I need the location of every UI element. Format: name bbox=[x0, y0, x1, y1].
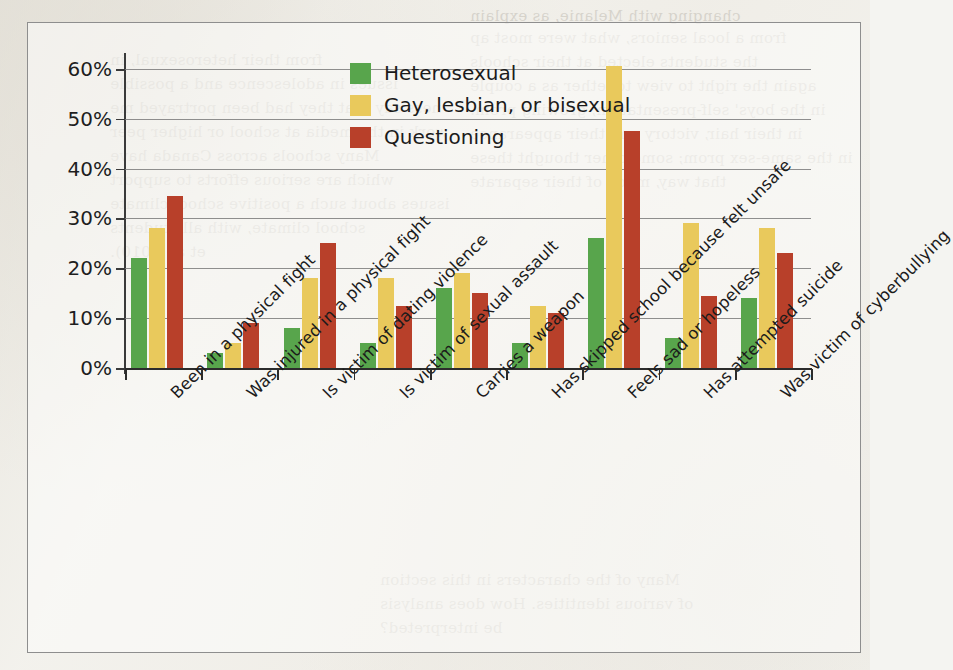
bar-2-0 bbox=[167, 196, 183, 368]
y-axis-labels: 0%10%20%30%40%50%60% bbox=[28, 23, 112, 654]
y-axis-tick-label: 50% bbox=[28, 107, 112, 131]
legend-swatch-questioning bbox=[350, 127, 371, 148]
gridline bbox=[125, 169, 811, 170]
y-axis-tick bbox=[116, 268, 125, 270]
bar-1-0 bbox=[149, 228, 165, 368]
y-axis-tick-label: 0% bbox=[28, 356, 112, 380]
y-axis-tick-label: 30% bbox=[28, 206, 112, 230]
y-axis-tick bbox=[116, 318, 125, 320]
legend-label-heterosexual: Heterosexual bbox=[384, 61, 516, 85]
x-axis-tick bbox=[811, 369, 813, 380]
legend-item: Gay, lesbian, or bisexual bbox=[350, 89, 680, 121]
plot-wrapper: 0%10%20%30%40%50%60% Heterosexual Gay, l… bbox=[28, 23, 862, 654]
x-axis-tick bbox=[430, 369, 432, 380]
bar-0-0 bbox=[131, 258, 147, 368]
chart-figure: 0%10%20%30%40%50%60% Heterosexual Gay, l… bbox=[27, 22, 861, 653]
legend-item: Questioning bbox=[350, 121, 680, 153]
legend-swatch-gay-lesbian-bisexual bbox=[350, 95, 371, 116]
y-axis-tick bbox=[116, 169, 125, 171]
x-axis-tick bbox=[125, 369, 127, 380]
x-axis-tick bbox=[506, 369, 508, 380]
y-axis-tick bbox=[116, 218, 125, 220]
y-axis-tick-label: 10% bbox=[28, 306, 112, 330]
legend-label-questioning: Questioning bbox=[384, 125, 504, 149]
legend-label-gay-lesbian-bisexual: Gay, lesbian, or bisexual bbox=[384, 93, 630, 117]
x-axis-tick bbox=[582, 369, 584, 380]
x-axis-tick bbox=[659, 369, 661, 380]
y-axis-tick-label: 60% bbox=[28, 57, 112, 81]
x-axis-spine bbox=[124, 368, 812, 370]
legend-swatch-heterosexual bbox=[350, 63, 371, 84]
y-axis-tick bbox=[116, 368, 125, 370]
x-axis-tick bbox=[277, 369, 279, 380]
x-axis-tick bbox=[735, 369, 737, 380]
y-axis-tick-label: 20% bbox=[28, 256, 112, 280]
y-axis-tick bbox=[116, 69, 125, 71]
legend-item: Heterosexual bbox=[350, 57, 680, 89]
y-axis-tick bbox=[116, 119, 125, 121]
x-axis-tick bbox=[354, 369, 356, 380]
chart-legend: Heterosexual Gay, lesbian, or bisexual Q… bbox=[350, 57, 680, 153]
y-axis-tick-label: 40% bbox=[28, 157, 112, 181]
gridline bbox=[125, 218, 811, 219]
x-axis-tick bbox=[201, 369, 203, 380]
gridline bbox=[125, 268, 811, 269]
